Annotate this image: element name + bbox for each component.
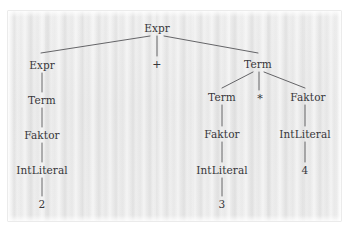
tree-node-plus: + xyxy=(152,59,161,70)
tree-node-right-faktor: Faktor xyxy=(290,92,325,103)
tree-node-root: Expr xyxy=(144,23,170,34)
tree-node-right-term: Term xyxy=(244,59,272,70)
tree-node-left-faktor: Faktor xyxy=(24,130,59,141)
screenshot-canvas: ExprExpr+TermTermFaktorIntLiteral2Term*F… xyxy=(0,0,351,234)
tree-node-right-value: 4 xyxy=(302,165,309,176)
tree-node-left-value: 2 xyxy=(39,199,46,210)
tree-node-mid-int: IntLiteral xyxy=(196,165,248,176)
tree-node-mid-value: 3 xyxy=(219,199,226,210)
tree-node-left-term: Term xyxy=(28,95,56,106)
figure-panel xyxy=(8,11,341,221)
tree-node-mid-faktor: Faktor xyxy=(204,129,239,140)
tree-node-left-int: IntLiteral xyxy=(16,165,68,176)
tree-node-star: * xyxy=(257,93,263,104)
tree-node-left-expr: Expr xyxy=(29,60,55,71)
tree-node-right-int: IntLiteral xyxy=(279,129,331,140)
tree-node-mid-term: Term xyxy=(208,92,236,103)
